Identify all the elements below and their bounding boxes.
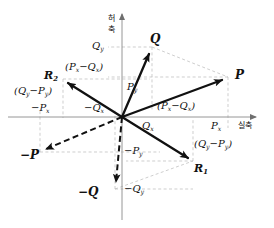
imaginary-axis-label-char-2: 축 bbox=[106, 25, 116, 34]
base-qx: Q bbox=[180, 100, 188, 111]
tick-label-Qy: Qy bbox=[92, 41, 104, 52]
tick-label-neg-Qy-sub: y bbox=[141, 188, 145, 195]
base-qy: Q bbox=[198, 138, 206, 149]
tick-label-Py: Py bbox=[127, 82, 137, 93]
tick-label-neg-Qx-sub: x bbox=[101, 107, 105, 114]
imaginary-axis-label-char-1: 허 bbox=[106, 14, 116, 23]
component-label-px-minus-qx-lower: (Px−Qx) bbox=[157, 101, 195, 112]
tick-label-neg-Px-sub: x bbox=[46, 107, 50, 114]
component-label-qy-minus-py-left: (Qy−Py) bbox=[14, 86, 52, 97]
vector-label-R2-sub: 2 bbox=[53, 75, 58, 83]
base-qx: Q bbox=[88, 61, 96, 72]
real-axis-label: 실축 bbox=[238, 122, 252, 130]
paren-close: ) bbox=[191, 100, 195, 111]
base-px: P bbox=[161, 100, 168, 111]
base-qy: Q bbox=[18, 85, 26, 96]
tick-label-Py-base: P bbox=[127, 81, 134, 92]
minus-sign: − bbox=[30, 85, 38, 96]
component-label-px-minus-qx-upper: (Px−Qx) bbox=[65, 62, 103, 73]
paren-close: ) bbox=[48, 85, 52, 96]
tick-label-neg-Py-base: −P bbox=[124, 145, 139, 156]
vector-label-neg-Q: −Q bbox=[78, 186, 99, 198]
minus-sign: − bbox=[210, 138, 218, 149]
vector-neg-Q bbox=[116, 117, 122, 182]
component-label-qy-minus-py-right: (Qy−Py) bbox=[194, 139, 232, 150]
vector-label-P: P bbox=[235, 69, 244, 81]
tick-label-Py-sub: y bbox=[134, 86, 138, 93]
tick-label-Qx-sub: x bbox=[150, 125, 154, 132]
vector-label-R1-sub: 1 bbox=[203, 168, 208, 176]
tick-label-neg-Qx: −Qx bbox=[84, 103, 104, 114]
minus-sign: − bbox=[171, 100, 179, 111]
tick-label-Qy-sub: y bbox=[100, 45, 104, 52]
vector-label-R2: R2 bbox=[44, 70, 58, 83]
tick-label-neg-Qy: −Qy bbox=[124, 184, 144, 195]
tick-label-neg-Qy-base: −Q bbox=[124, 183, 141, 194]
vector-label-R1-base: R bbox=[194, 162, 203, 175]
minus-sign: − bbox=[79, 61, 87, 72]
tick-label-Px: Px bbox=[211, 121, 221, 132]
guide-q-to-p bbox=[152, 47, 228, 77]
base-px: P bbox=[69, 61, 76, 72]
tick-label-neg-Px-base: −P bbox=[31, 102, 46, 113]
dashed-vectors bbox=[46, 117, 122, 182]
vector-label-neg-P: −P bbox=[20, 149, 39, 161]
paren-close: ) bbox=[228, 138, 232, 149]
tick-label-Qy-base: Q bbox=[92, 40, 100, 51]
tick-label-neg-Px: −Px bbox=[31, 103, 50, 114]
tick-label-Qx-base: Q bbox=[142, 120, 150, 131]
tick-label-Px-base: P bbox=[211, 120, 218, 131]
vector-label-Q: Q bbox=[150, 33, 160, 45]
base-py: P bbox=[38, 85, 45, 96]
tick-label-neg-Py: −Py bbox=[124, 146, 143, 157]
paren-close: ) bbox=[99, 61, 103, 72]
vector-neg-P bbox=[46, 117, 122, 149]
tick-label-neg-Py-sub: y bbox=[139, 150, 143, 157]
vector-diagram: 실축 허 축 P Q R1 R2 −P −Q Qy Py −Qx −Px Qx … bbox=[0, 0, 274, 228]
tick-label-Qx: Qx bbox=[142, 121, 154, 132]
vector-label-R1: R1 bbox=[194, 163, 208, 176]
tick-label-Px-sub: x bbox=[218, 125, 222, 132]
tick-label-neg-Qx-base: −Q bbox=[84, 102, 101, 113]
vector-label-R2-base: R bbox=[44, 69, 53, 82]
base-py: P bbox=[218, 138, 225, 149]
